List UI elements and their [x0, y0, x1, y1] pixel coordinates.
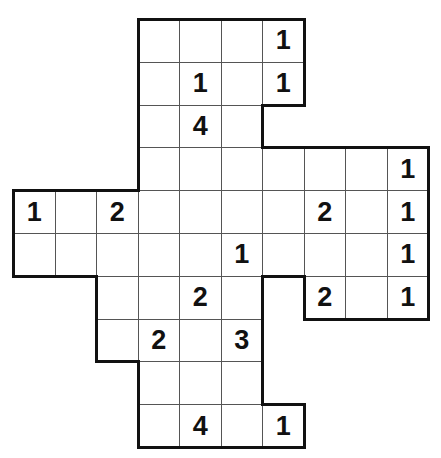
grid-cell[interactable] — [221, 404, 264, 448]
region-border — [178, 18, 223, 21]
grid-cell[interactable] — [221, 62, 264, 106]
grid-cell[interactable]: 2 — [138, 319, 181, 363]
grid-cell[interactable]: 1 — [179, 62, 222, 106]
grid-cell[interactable] — [96, 276, 139, 320]
region-border — [95, 318, 98, 364]
grid-cell[interactable]: 1 — [221, 233, 264, 277]
grid-cell[interactable] — [96, 233, 139, 277]
grid-cell[interactable] — [221, 147, 264, 191]
grid-cell[interactable]: 1 — [13, 190, 56, 234]
region-border — [303, 146, 348, 149]
grid-cell[interactable] — [13, 233, 56, 277]
grid-cell[interactable] — [138, 233, 181, 277]
grid-cell[interactable] — [179, 19, 222, 63]
region-border — [261, 403, 306, 406]
grid-cell[interactable] — [262, 190, 305, 234]
region-border — [137, 146, 140, 192]
region-border — [220, 446, 265, 449]
grid-cell[interactable]: 1 — [262, 404, 305, 448]
region-border — [54, 275, 99, 278]
region-border — [344, 146, 389, 149]
region-border — [137, 403, 140, 449]
grid-cell[interactable] — [179, 147, 222, 191]
grid-cell[interactable]: 2 — [96, 190, 139, 234]
grid-cell[interactable] — [179, 319, 222, 363]
grid-cell[interactable] — [345, 276, 388, 320]
grid-cell[interactable] — [221, 361, 264, 405]
region-border — [95, 189, 140, 192]
region-border — [137, 360, 140, 406]
grid-cell[interactable] — [179, 361, 222, 405]
grid-cell[interactable]: 4 — [179, 404, 222, 448]
grid-cell[interactable] — [345, 190, 388, 234]
grid-cell[interactable] — [179, 233, 222, 277]
region-border — [261, 275, 264, 321]
grid-cell[interactable]: 4 — [179, 105, 222, 149]
grid-cell[interactable] — [138, 361, 181, 405]
grid-cell[interactable] — [262, 147, 305, 191]
region-border — [303, 403, 306, 449]
region-border — [427, 275, 430, 321]
region-border — [344, 318, 389, 321]
region-border — [303, 61, 306, 107]
grid-cell[interactable] — [138, 105, 181, 149]
grid-cell[interactable] — [345, 233, 388, 277]
region-border — [303, 318, 348, 321]
region-border — [12, 232, 15, 278]
region-border — [303, 275, 306, 321]
region-border — [95, 360, 140, 363]
grid-cell[interactable] — [221, 190, 264, 234]
grid-cell[interactable] — [138, 147, 181, 191]
grid-cell[interactable] — [179, 190, 222, 234]
grid-cell[interactable] — [304, 233, 347, 277]
region-border — [427, 232, 430, 278]
region-border — [95, 275, 98, 321]
region-border — [178, 446, 223, 449]
grid-cell[interactable]: 1 — [387, 276, 430, 320]
region-border — [137, 18, 140, 64]
grid-cell[interactable] — [138, 19, 181, 63]
grid-cell[interactable] — [96, 319, 139, 363]
region-border — [261, 360, 264, 406]
grid-cell[interactable] — [138, 276, 181, 320]
grid-cell[interactable]: 3 — [221, 319, 264, 363]
region-border — [427, 146, 430, 192]
region-border — [261, 146, 306, 149]
region-border — [386, 146, 431, 149]
grid-cell[interactable] — [221, 105, 264, 149]
region-border — [427, 189, 430, 235]
region-border — [137, 61, 140, 107]
grid-cell[interactable]: 1 — [387, 190, 430, 234]
region-border — [261, 104, 264, 150]
region-border — [12, 189, 15, 235]
region-border — [386, 318, 431, 321]
region-border — [137, 18, 182, 21]
region-border — [54, 189, 99, 192]
grid-cell[interactable] — [55, 233, 98, 277]
region-border — [137, 446, 182, 449]
region-border — [137, 104, 140, 150]
region-border — [261, 318, 264, 364]
grid-cell[interactable] — [221, 19, 264, 63]
grid-cell[interactable] — [304, 147, 347, 191]
grid-cell[interactable]: 1 — [262, 62, 305, 106]
grid-cell[interactable] — [138, 62, 181, 106]
grid-cell[interactable] — [221, 276, 264, 320]
grid-cell[interactable] — [55, 190, 98, 234]
grid-cell[interactable]: 2 — [179, 276, 222, 320]
grid-cell[interactable] — [138, 404, 181, 448]
grid-cell[interactable] — [262, 233, 305, 277]
puzzle-board: 111411221112212341 — [0, 0, 441, 458]
region-border — [261, 104, 306, 107]
region-border — [303, 18, 306, 64]
region-border — [12, 189, 57, 192]
region-border — [12, 275, 57, 278]
grid-cell[interactable]: 1 — [262, 19, 305, 63]
grid-cell[interactable]: 2 — [304, 190, 347, 234]
grid-cell[interactable] — [138, 190, 181, 234]
grid-cell[interactable] — [345, 147, 388, 191]
region-border — [220, 18, 265, 21]
grid-cell[interactable]: 1 — [387, 147, 430, 191]
grid-cell[interactable]: 1 — [387, 233, 430, 277]
grid-cell[interactable]: 2 — [304, 276, 347, 320]
